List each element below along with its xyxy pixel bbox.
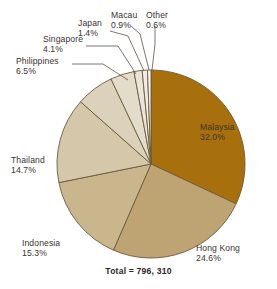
slice-label-other: Other 0.6% [146, 10, 168, 30]
slice-label-philippines-name: Philippines [16, 56, 59, 66]
slice-label-hong-kong: Hong Kong 24.6% [196, 243, 240, 263]
slice-label-thailand-name: Thailand [11, 155, 45, 165]
slice-label-macau-name: Macau [111, 10, 137, 20]
slice-label-thailand: Thailand 14.7% [11, 155, 45, 175]
slice-label-japan-name: Japan [78, 18, 102, 28]
slice-label-other-pct: 0.6% [146, 20, 168, 30]
slice-label-indonesia: Indonesia 15.3% [22, 238, 60, 258]
slice-label-thailand-pct: 14.7% [11, 165, 45, 175]
slice-label-malaysia-name: Malaysia [200, 122, 235, 132]
slice-label-japan-pct: 1.4% [78, 28, 102, 38]
slice-label-hong-kong-name: Hong Kong [196, 243, 240, 253]
slice-label-japan: Japan 1.4% [78, 18, 102, 38]
leader-line-japan [110, 31, 144, 71]
slice-label-macau: Macau 0.9% [111, 10, 137, 30]
leader-line-singapore [86, 46, 136, 74]
slice-label-philippines-pct: 6.5% [16, 66, 59, 76]
slice-label-malaysia: Malaysia 32.0% [200, 122, 235, 142]
slice-label-other-name: Other [146, 10, 168, 20]
pie-chart: Malaysia 32.0% Hong Kong 24.6% Indonesia… [0, 0, 277, 289]
leader-line-other [152, 26, 155, 70]
slice-label-singapore-pct: 4.1% [43, 44, 83, 54]
slice-label-philippines: Philippines 6.5% [16, 56, 59, 76]
slice-label-malaysia-pct: 32.0% [200, 132, 235, 142]
slice-label-macau-pct: 0.9% [111, 20, 137, 30]
slice-label-hong-kong-pct: 24.6% [196, 253, 240, 263]
slice-label-indonesia-pct: 15.3% [22, 248, 60, 258]
chart-total-label: Total = 796, 310 [0, 266, 277, 276]
slice-label-indonesia-name: Indonesia [22, 238, 60, 248]
pie-slices-group [57, 70, 245, 258]
